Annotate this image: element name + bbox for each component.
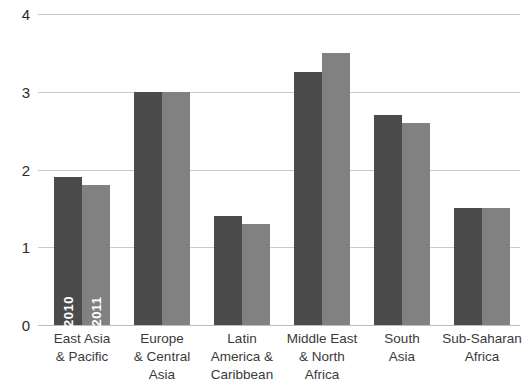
bar-2011[interactable]: 2011 — [82, 185, 110, 325]
bar-2011[interactable] — [482, 208, 510, 325]
y-axis-tick-3: 3 — [0, 85, 30, 100]
bar-group — [454, 14, 510, 325]
bar-group — [214, 14, 270, 325]
bar-2011[interactable] — [322, 53, 350, 325]
y-axis-tick-0: 0 — [0, 318, 30, 333]
bar-2011[interactable] — [402, 123, 430, 325]
bar-2010[interactable] — [134, 92, 162, 325]
bar-2010[interactable]: 2010 — [54, 177, 82, 325]
bar-2011[interactable] — [242, 224, 270, 325]
x-axis-label-line: Africa — [274, 366, 370, 384]
x-axis-label-line: Africa — [434, 348, 526, 366]
y-axis-tick-4: 4 — [0, 7, 30, 22]
series-label-2010: 2010 — [61, 296, 76, 327]
bar-2011[interactable] — [162, 92, 190, 325]
y-axis-tick-1: 1 — [0, 240, 30, 255]
bar-group — [134, 14, 190, 325]
bar-group — [374, 14, 430, 325]
x-axis-label-line: Sub-Saharan — [434, 330, 526, 348]
x-axis-label: Sub-SaharanAfrica — [434, 330, 526, 366]
y-axis-tick-2: 2 — [0, 163, 30, 178]
bar-2010[interactable] — [214, 216, 242, 325]
bar-2010[interactable] — [374, 115, 402, 325]
series-label-2011: 2011 — [89, 296, 104, 326]
bar-2010[interactable] — [454, 208, 482, 325]
bar-group — [294, 14, 350, 325]
axis-baseline — [38, 325, 520, 326]
bar-group: 20102011 — [54, 14, 110, 325]
plot-area: 20102011 — [38, 14, 520, 325]
bar-2010[interactable] — [294, 72, 322, 325]
